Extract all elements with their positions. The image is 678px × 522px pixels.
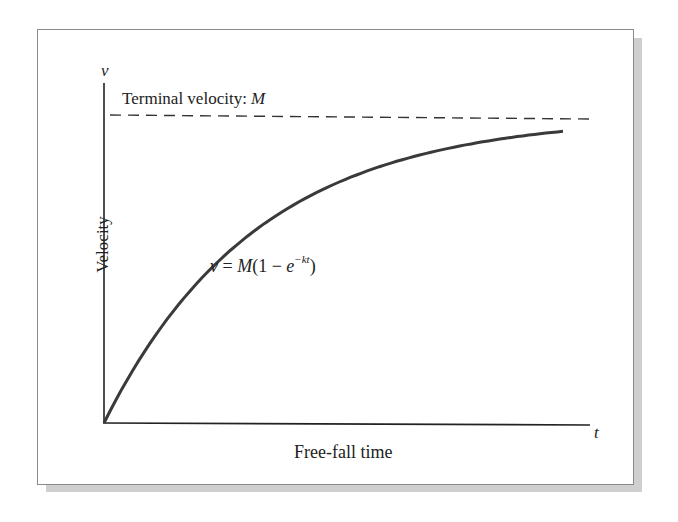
eq-close: ) — [310, 256, 316, 276]
eq-M: M — [237, 256, 252, 276]
x-axis-symbol: t — [594, 424, 599, 441]
eq-exponent: −kt — [294, 253, 309, 265]
velocity-curve — [104, 131, 563, 423]
eq-equals: = — [218, 256, 237, 276]
terminal-velocity-text: Terminal velocity: — [122, 89, 251, 108]
eq-open: (1 − — [252, 256, 286, 276]
y-axis-symbol: v — [101, 62, 109, 79]
equation-label: v = M(1 − e−kt) — [210, 257, 316, 275]
terminal-velocity-label: Terminal velocity: M — [122, 90, 265, 107]
terminal-velocity-asymptote — [110, 115, 590, 119]
terminal-velocity-var: M — [251, 89, 265, 108]
eq-v: v — [210, 256, 218, 276]
x-axis-label: Free-fall time — [294, 443, 392, 461]
y-axis-label: Velocity — [94, 205, 111, 285]
x-axis — [103, 423, 590, 425]
